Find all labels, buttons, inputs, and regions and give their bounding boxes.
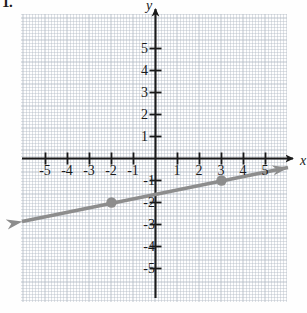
y-tick-label--3: -3 [143,218,155,232]
x-tick-label--4: -4 [61,164,73,178]
coordinate-plane: y x -5 -4 -3 -2 -1 1 2 3 4 5 5 4 3 2 1 -… [0,0,307,313]
y-tick-label--4: -4 [143,240,155,254]
x-tick-label-5: 5 [262,164,269,178]
x-tick-label-3: 3 [218,164,225,178]
y-tick-label-2: 2 [141,108,148,122]
x-tick-label-2: 2 [196,164,203,178]
x-tick-label--5: -5 [39,164,51,178]
x-tick-label-1: 1 [174,164,181,178]
y-tick-label--5: -5 [143,262,155,276]
y-tick-label--2: -2 [143,196,155,210]
y-tick-label--1: -1 [143,174,155,188]
y-tick-label-1: 1 [141,130,148,144]
y-tick-label-4: 4 [141,64,148,78]
x-tick-label--1: -1 [127,164,139,178]
graph-figure: 1. [0,0,307,313]
y-axis-label: y [146,0,152,14]
x-axis-label: x [300,153,306,169]
x-tick-label-4: 4 [240,164,247,178]
x-tick-label--2: -2 [105,164,117,178]
x-tick-label--3: -3 [83,164,95,178]
y-tick-label-3: 3 [141,86,148,100]
y-tick-label-5: 5 [141,42,148,56]
plotted-point [106,197,116,207]
